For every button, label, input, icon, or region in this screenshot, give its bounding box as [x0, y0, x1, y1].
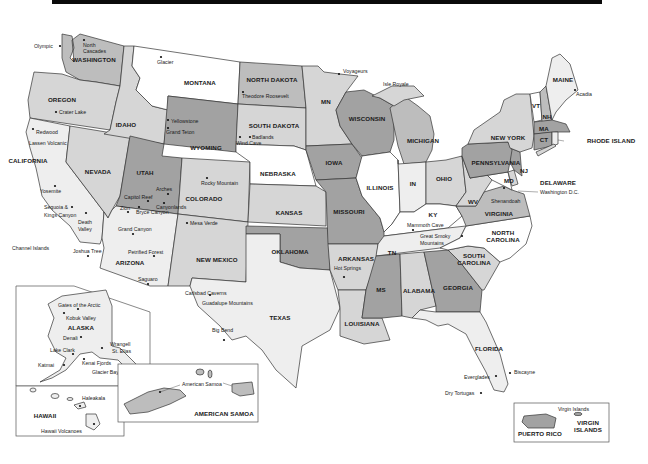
- park-voyageurs[interactable]: Voyageurs: [343, 68, 368, 74]
- park-great-smoky-2[interactable]: Mountains: [420, 240, 444, 246]
- park-wrangell-2[interactable]: St. Elias: [112, 348, 131, 354]
- state-rhode-island[interactable]: [552, 132, 558, 146]
- label-arkansas: ARKANSAS: [338, 255, 374, 262]
- state-north-dakota[interactable]: [238, 62, 306, 108]
- park-yellowstone[interactable]: Yellowstone: [171, 118, 199, 124]
- park-lake-clark[interactable]: Lake Clark: [50, 347, 75, 353]
- label-georgia: GEORGIA: [443, 284, 473, 291]
- state-kansas[interactable]: [248, 184, 326, 226]
- label-massachusetts: MA: [539, 125, 549, 132]
- label-utah: UTAH: [136, 169, 154, 176]
- label-florida: FLORIDA: [475, 345, 504, 352]
- park-sequoia-1[interactable]: Sequoia &: [44, 204, 68, 210]
- label-new-jersey: NJ: [520, 167, 529, 174]
- park-kenai-fjords[interactable]: Kenai Fjords: [82, 360, 112, 366]
- park-isle-royale[interactable]: Isle Royale: [383, 81, 409, 87]
- park-crater-lake[interactable]: Crater Lake: [59, 109, 86, 115]
- label-pennsylvania: PENNSYLVANIA: [472, 159, 521, 166]
- park-death-valley-2[interactable]: Valley: [78, 226, 92, 232]
- label-rhode-island: RHODE ISLAND: [587, 137, 636, 144]
- park-wind-cave[interactable]: Wind Cave: [236, 140, 261, 146]
- park-channel-islands[interactable]: Channel Islands: [12, 245, 50, 251]
- park-washington-dc[interactable]: Washington D.C.: [540, 189, 579, 195]
- island-kauai: [30, 388, 36, 392]
- label-new-york: NEW YORK: [491, 134, 526, 141]
- park-bryce-canyon[interactable]: Bryce Canyon: [136, 209, 169, 215]
- park-rocky-mountain[interactable]: Rocky Mountain: [201, 180, 238, 186]
- park-death-valley-1[interactable]: Death: [78, 219, 92, 225]
- park-great-smoky-1[interactable]: Great Smoky: [420, 233, 451, 239]
- label-south-carolina-2: CAROLINA: [457, 259, 491, 266]
- park-hot-springs[interactable]: Hot Springs: [334, 265, 362, 271]
- label-mississippi: MS: [376, 286, 385, 293]
- label-american-samoa: AMERICAN SAMOA: [194, 410, 254, 417]
- state-michigan[interactable]: [390, 96, 434, 164]
- label-minnesota: MN: [321, 98, 331, 105]
- label-missouri: MISSOURI: [333, 208, 365, 215]
- label-alaska: ALASKA: [68, 324, 95, 331]
- label-wyoming: WYOMING: [190, 144, 222, 151]
- park-capitol-reef[interactable]: Capitol Reef: [124, 194, 153, 200]
- park-guadalupe[interactable]: Guadalupe Mountains: [202, 300, 253, 306]
- park-shenandoah[interactable]: Shenandoah: [491, 198, 521, 204]
- park-redwood[interactable]: Redwood: [36, 129, 58, 135]
- park-mammoth-cave[interactable]: Mammoth Cave: [407, 222, 444, 228]
- park-wrangell-1[interactable]: Wrangell: [110, 341, 130, 347]
- park-katmai[interactable]: Katmai: [38, 362, 54, 368]
- island-virgin-islands[interactable]: [574, 412, 582, 415]
- hawaii-inset: HAWAII Haleakala Hawaii Volcanoes: [16, 386, 124, 436]
- label-iowa: IOWA: [326, 159, 343, 166]
- park-olympic[interactable]: Olympic: [34, 43, 53, 49]
- park-american-samoa[interactable]: American Samoa: [182, 381, 222, 387]
- park-carlsbad[interactable]: Carlsbad Caverns: [185, 290, 227, 296]
- park-mesa-verde[interactable]: Mesa Verde: [190, 220, 218, 226]
- label-hawaii: HAWAII: [34, 412, 57, 419]
- island-oahu: [51, 394, 59, 399]
- park-zion[interactable]: Zion: [120, 205, 130, 211]
- park-acadia[interactable]: Acadia: [576, 91, 592, 97]
- puerto-rico-inset: Virgin Islands PUERTO RICO VIRGIN ISLAND…: [514, 403, 609, 442]
- park-hawaii-volcanoes[interactable]: Hawaii Volcanoes: [41, 428, 82, 434]
- park-theodore-roosevelt[interactable]: Theodore Roosevelt: [242, 93, 289, 99]
- park-yosemite[interactable]: Yosemite: [40, 188, 61, 194]
- park-glacier[interactable]: Glacier: [157, 59, 174, 65]
- park-gates-arctic[interactable]: Gates of the Arctic: [58, 302, 101, 308]
- park-grand-teton[interactable]: Grand Teton: [166, 129, 195, 135]
- label-arizona: ARIZONA: [116, 259, 145, 266]
- park-saguaro[interactable]: Saguaro: [138, 276, 158, 282]
- state-arizona[interactable]: [100, 206, 178, 286]
- park-joshua-tree[interactable]: Joshua Tree: [73, 248, 102, 254]
- label-virgin-islands-2: ISLANDS: [574, 426, 602, 433]
- island-tau[interactable]: [232, 382, 254, 396]
- park-sequoia-2[interactable]: Kings Canyon: [44, 212, 76, 218]
- park-denali[interactable]: Denali: [63, 335, 78, 341]
- label-alabama: ALABAMA: [403, 287, 435, 294]
- label-north-carolina-1: NORTH: [492, 229, 515, 236]
- park-arches[interactable]: Arches: [156, 186, 173, 192]
- label-nebraska: NEBRASKA: [260, 170, 296, 177]
- state-maine[interactable]: [546, 54, 578, 120]
- park-everglades[interactable]: Everglades: [464, 374, 490, 380]
- label-maine: MAINE: [553, 76, 573, 83]
- label-kentucky: KY: [429, 211, 439, 218]
- park-biscayne[interactable]: Biscayne: [514, 369, 535, 375]
- park-virgin-islands[interactable]: Virgin Islands: [558, 406, 589, 412]
- park-grand-canyon[interactable]: Grand Canyon: [118, 226, 152, 232]
- label-north-dakota: NORTH DAKOTA: [247, 76, 298, 83]
- label-nevada: NEVADA: [85, 168, 112, 175]
- park-haleakala[interactable]: Haleakala: [82, 395, 105, 401]
- label-vermont: VT: [532, 102, 540, 109]
- island-puerto-rico[interactable]: [522, 414, 556, 428]
- american-samoa-inset: AMERICAN SAMOA American Samoa: [118, 364, 258, 422]
- park-glacier-bay[interactable]: Glacier Bay: [92, 369, 119, 375]
- state-colorado[interactable]: [178, 158, 250, 222]
- park-petrified-forest[interactable]: Petrified Forest: [128, 249, 164, 255]
- leader-rhode-island: [558, 140, 564, 141]
- park-kobuk-valley[interactable]: Kobuk Valley: [66, 315, 96, 321]
- park-dry-tortugas[interactable]: Dry Tortugas: [445, 390, 475, 396]
- label-texas: TEXAS: [269, 314, 290, 321]
- park-lassen-label[interactable]: Lassen Volcanic: [29, 140, 67, 146]
- park-big-bend[interactable]: Big Bend: [212, 327, 233, 333]
- label-colorado: COLORADO: [186, 195, 223, 202]
- park-north-cascades-2[interactable]: Cascades: [83, 48, 106, 54]
